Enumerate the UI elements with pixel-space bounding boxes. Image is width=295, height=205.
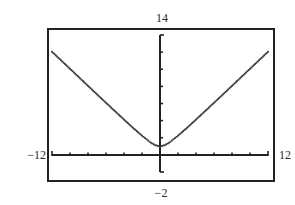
y-axis [160, 35, 164, 172]
graph-screen [0, 0, 295, 205]
xmin-label: −12 [18, 149, 46, 161]
ymin-label: −2 [149, 187, 173, 199]
xmax-label: 12 [279, 149, 295, 161]
ymax-label: 14 [152, 12, 172, 24]
